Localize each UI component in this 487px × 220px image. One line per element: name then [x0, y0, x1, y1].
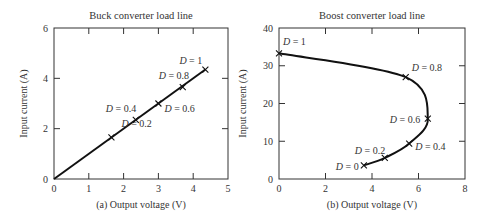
x-tick-label: 4 — [370, 183, 375, 194]
figure: 0123450246Buck converter load line(a) Ou… — [0, 0, 487, 220]
y-tick-label: 6 — [43, 23, 48, 34]
data-label: D = 0.6 — [389, 114, 420, 125]
y-tick-label: 40 — [263, 23, 273, 34]
data-label: D = 0.6 — [163, 103, 194, 114]
x-tick-label: 2 — [121, 183, 126, 194]
x-tick-label: 4 — [191, 183, 196, 194]
x-marker — [406, 141, 412, 147]
boost-chart: 02468010203040Boost converter load line(… — [237, 10, 468, 211]
y-axis-label: Input current (A) — [237, 69, 249, 137]
x-marker — [155, 101, 161, 107]
data-label: D = 1 — [282, 36, 306, 47]
load-line — [279, 53, 428, 165]
x-tick-label: 2 — [323, 183, 328, 194]
x-tick-label: 3 — [156, 183, 161, 194]
y-tick-label: 10 — [263, 136, 273, 147]
data-label: D = 0.8 — [411, 62, 442, 73]
y-tick-label: 30 — [263, 60, 273, 71]
x-tick-label: 0 — [277, 183, 282, 194]
y-tick-label: 2 — [43, 123, 48, 134]
data-label: D = 0.4 — [414, 141, 445, 152]
y-tick-label: 20 — [263, 98, 273, 109]
x-marker — [202, 67, 208, 73]
x-tick-label: 6 — [416, 183, 421, 194]
data-label: D = 0.8 — [158, 70, 189, 81]
chart-title: Buck converter load line — [89, 10, 193, 21]
x-axis-label: (a) Output voltage (V) — [96, 199, 186, 211]
y-tick-label: 4 — [43, 73, 48, 84]
plot-frame — [279, 28, 465, 179]
chart-title: Boost converter load line — [319, 10, 425, 21]
x-tick-label: 8 — [463, 183, 468, 194]
data-label: D = 0.2 — [354, 145, 385, 156]
x-tick-label: 0 — [52, 183, 57, 194]
data-label: D = 0 — [335, 161, 359, 172]
x-marker — [108, 134, 114, 140]
x-tick-label: 1 — [86, 183, 91, 194]
x-tick-label: 5 — [226, 183, 231, 194]
y-tick-label: 0 — [43, 174, 48, 185]
y-axis-label: Input current (A) — [18, 69, 30, 137]
data-label: D = 0.4 — [105, 103, 136, 114]
data-label: D = 1 — [178, 55, 202, 66]
plot-frame — [54, 28, 228, 179]
buck-chart: 0123450246Buck converter load line(a) Ou… — [18, 10, 231, 211]
x-axis-label: (b) Output voltage (V) — [327, 199, 417, 211]
y-tick-label: 0 — [268, 174, 273, 185]
